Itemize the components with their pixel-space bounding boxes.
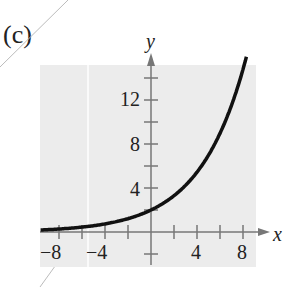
x-tick-label-8: 8 — [237, 241, 247, 264]
decorative-line — [0, 0, 68, 67]
y-tick-label-8: 8 — [130, 133, 140, 156]
x-tick-label-neg4: −4 — [86, 241, 107, 264]
y-axis-label: y — [146, 30, 155, 53]
x-tick-label-4: 4 — [191, 241, 201, 264]
y-tick-label-4: 4 — [130, 178, 140, 201]
x-tick-label-neg8: −8 — [40, 241, 61, 264]
y-tick-label-12: 12 — [120, 88, 140, 111]
x-axis-label: x — [273, 223, 282, 246]
